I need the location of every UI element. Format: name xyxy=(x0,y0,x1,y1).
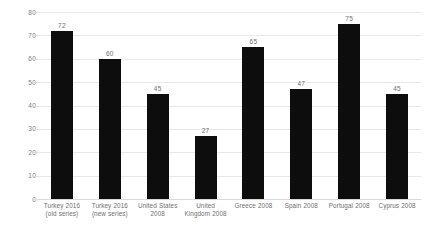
gridline-0 xyxy=(38,199,421,200)
bar xyxy=(338,24,360,199)
bar xyxy=(195,136,217,199)
y-axis-tickmark-60 xyxy=(34,59,38,60)
y-axis-tick-label-20: 20 xyxy=(12,149,36,156)
y-axis-tickmark-50 xyxy=(34,82,38,83)
y-axis-tickmark-80 xyxy=(34,12,38,13)
y-axis-tickmark-10 xyxy=(34,176,38,177)
x-axis-category-label-line-2: Kingdom 2008 xyxy=(176,210,236,218)
bar-group: 27 xyxy=(182,12,230,199)
y-axis-tick-label-0: 0 xyxy=(12,196,36,203)
bar-group: 65 xyxy=(230,12,278,199)
y-axis-tick-label-10: 10 xyxy=(12,172,36,179)
bar-value-label: 60 xyxy=(106,50,114,57)
x-axis-category-label-line-1: Cyprus 2008 xyxy=(367,202,427,210)
bar xyxy=(386,94,408,199)
bar xyxy=(147,94,169,199)
bar xyxy=(242,47,264,199)
y-axis-tick-label-60: 60 xyxy=(12,55,36,62)
bar-group: 75 xyxy=(325,12,373,199)
y-axis-tick-label-80: 80 xyxy=(12,9,36,16)
bars-layer: 7260452765477545 xyxy=(38,12,421,199)
bar-value-label: 27 xyxy=(202,127,210,134)
bar-group: 45 xyxy=(373,12,421,199)
bar-value-label: 72 xyxy=(58,22,66,29)
bar xyxy=(99,59,121,199)
bar-value-label: 45 xyxy=(393,85,401,92)
y-axis-tickmark-70 xyxy=(34,35,38,36)
bar-group: 60 xyxy=(86,12,134,199)
y-axis-tickmark-30 xyxy=(34,129,38,130)
y-axis-tickmark-20 xyxy=(34,152,38,153)
x-axis-category-label: Cyprus 2008 xyxy=(367,202,427,210)
bar-value-label: 65 xyxy=(250,38,258,45)
bar-group: 72 xyxy=(38,12,86,199)
bar-value-label: 47 xyxy=(297,80,305,87)
y-axis-tickmark-40 xyxy=(34,106,38,107)
bar xyxy=(290,89,312,199)
bar-value-label: 75 xyxy=(345,15,353,22)
bar xyxy=(51,31,73,199)
x-axis-labels: Turkey 2016(old series)Turkey 2016(new s… xyxy=(38,201,421,235)
y-axis-tick-label-70: 70 xyxy=(12,32,36,39)
bar-group: 45 xyxy=(134,12,182,199)
bar-group: 47 xyxy=(277,12,325,199)
y-axis-tick-label-50: 50 xyxy=(12,79,36,86)
bar-value-label: 45 xyxy=(154,85,162,92)
y-axis-tickmark-0 xyxy=(34,199,38,200)
y-axis-tick-label-30: 30 xyxy=(12,125,36,132)
bar-chart: 7260452765477545 Turkey 2016(old series)… xyxy=(0,0,429,236)
y-axis-tick-label-40: 40 xyxy=(12,102,36,109)
